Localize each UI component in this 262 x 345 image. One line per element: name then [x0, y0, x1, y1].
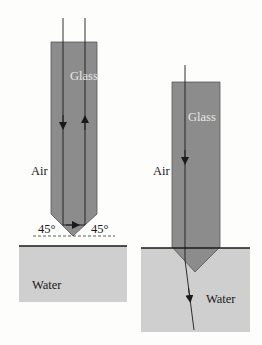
air-label: Air	[31, 164, 49, 178]
glass-label: Glass	[70, 69, 98, 83]
right-panel: Glass Air Water	[141, 65, 250, 332]
air-label: Air	[153, 164, 171, 178]
glass-label: Glass	[188, 110, 216, 124]
angle-right-label: 45°	[91, 222, 109, 236]
water-label: Water	[32, 278, 62, 292]
refraction-diagram: Glass Air 45° 45° Water Glass Air Water	[0, 0, 262, 345]
water-label: Water	[206, 292, 236, 306]
angle-left-label: 45°	[38, 222, 56, 236]
water-region	[19, 246, 127, 302]
left-panel: Glass Air 45° 45° Water	[19, 18, 127, 302]
